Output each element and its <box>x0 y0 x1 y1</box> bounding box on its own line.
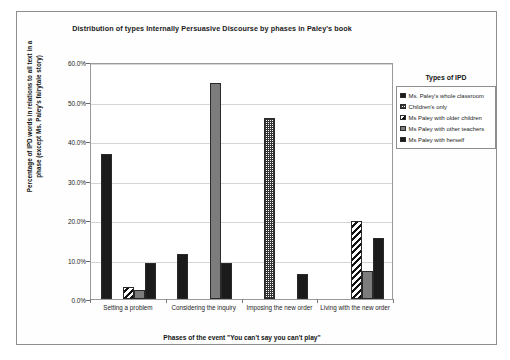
legend-item-label: Ms Paley with older children <box>409 115 482 121</box>
x-tick-mark <box>242 299 243 303</box>
bar-group <box>167 64 243 299</box>
x-tick-mark <box>166 299 167 303</box>
legend-item[interactable]: Children's only <box>399 101 493 112</box>
x-tick-mark <box>317 299 318 303</box>
bar[interactable] <box>373 238 384 299</box>
legend-item-label: Ms Paley with other teachers <box>409 126 485 132</box>
bar-group <box>243 64 319 299</box>
y-tick-label: 10.0% <box>52 257 86 264</box>
bar[interactable] <box>123 287 134 299</box>
legend-swatch-icon <box>400 93 406 99</box>
legend-swatch-icon <box>400 137 406 143</box>
y-tick-label: 40.0% <box>52 139 86 146</box>
legend-swatch-icon <box>400 115 406 121</box>
legend-item-label: Ms Paley with herself <box>409 137 465 143</box>
y-tick-label: 0.0% <box>52 297 86 304</box>
legend: Types of IPD Ms. Paley's whole classroom… <box>396 74 496 149</box>
legend-item-label: Children's only <box>409 104 447 110</box>
bar[interactable] <box>177 254 188 299</box>
x-axis-title: Phases of the event "You can't say you c… <box>57 334 427 341</box>
legend-swatch-icon <box>400 104 406 110</box>
bar[interactable] <box>351 221 362 299</box>
bar[interactable] <box>362 271 373 299</box>
legend-swatch-icon <box>400 126 406 132</box>
bar[interactable] <box>134 290 145 299</box>
x-tick-mark <box>90 299 91 303</box>
y-axis-title: Percentage of IPD words in relations to … <box>26 32 43 202</box>
legend-title: Types of IPD <box>396 74 496 81</box>
y-axis-ticks: 0.0%10.0%20.0%30.0%40.0%50.0%60.0% <box>48 63 86 300</box>
x-tick-label: Imposing the new order <box>242 303 318 312</box>
x-tick-label: Considering the inquiry <box>166 303 242 312</box>
bar[interactable] <box>101 154 112 299</box>
x-axis-labels: Setting a problemConsidering the inquiry… <box>90 303 393 333</box>
legend-item[interactable]: Ms Paley with herself <box>399 134 493 145</box>
y-tick-label: 50.0% <box>52 99 86 106</box>
x-tick-mark <box>393 299 394 303</box>
plot-area <box>90 63 393 300</box>
bar[interactable] <box>145 263 156 299</box>
bar-group <box>318 64 394 299</box>
legend-box: Ms. Paley's whole classroomChildren's on… <box>396 86 496 149</box>
y-tick-label: 60.0% <box>52 60 86 67</box>
bar[interactable] <box>210 83 221 299</box>
bar[interactable] <box>221 263 232 299</box>
chart-frame: Distribution of types Internally Persuas… <box>16 11 497 345</box>
bar[interactable] <box>264 118 275 299</box>
legend-item[interactable]: Ms. Paley's whole classroom <box>399 90 493 101</box>
x-tick-label: Setting a problem <box>90 303 166 312</box>
bar-group <box>91 64 167 299</box>
y-tick-label: 30.0% <box>52 178 86 185</box>
scanned-page: Distribution of types Internally Persuas… <box>0 0 510 360</box>
bar[interactable] <box>297 274 308 299</box>
legend-item-label: Ms. Paley's whole classroom <box>409 93 484 99</box>
y-tick-label: 20.0% <box>52 218 86 225</box>
legend-item[interactable]: Ms Paley with older children <box>399 112 493 123</box>
x-tick-label: Living with the new order <box>317 303 393 312</box>
chart-title: Distribution of types Internally Persuas… <box>17 24 407 33</box>
legend-item[interactable]: Ms Paley with other teachers <box>399 123 493 134</box>
